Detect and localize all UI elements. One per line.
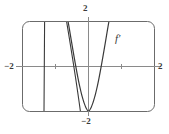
y-axis-top-label: 2 [83, 4, 88, 13]
x-axis-left-label: −2 [4, 62, 14, 71]
x-axis-right-label: 2 [158, 62, 163, 71]
graph-figure: 2 −2 −2 2 f′ [0, 0, 169, 134]
plot-canvas [0, 0, 169, 134]
curve-vertical-branch [44, 21, 45, 112]
y-axis-bottom-label: −2 [81, 117, 91, 126]
curve-label-f-prime: f′ [115, 33, 120, 44]
